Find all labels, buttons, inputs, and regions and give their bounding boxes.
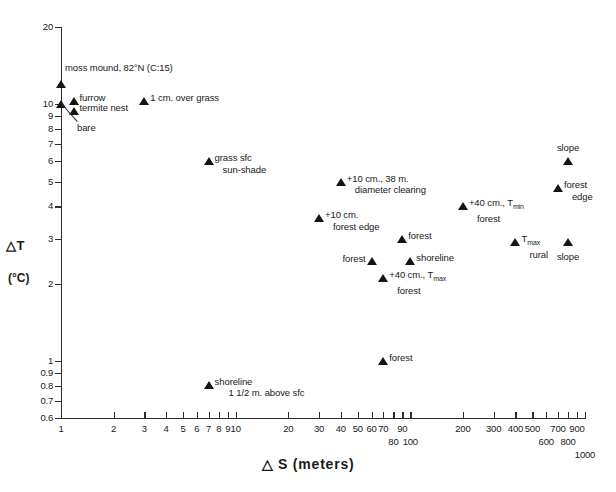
data-point-label: 1 cm. over grass: [150, 92, 219, 104]
label-line-1: slope: [557, 251, 579, 262]
label-line-2: edge: [564, 191, 593, 203]
scatter-chart: 20109876543210.90.80.70.6 12345678910203…: [0, 0, 616, 492]
label-line-2: sun-shade: [215, 164, 266, 176]
x-axis-title: △ S (meters): [0, 456, 616, 472]
y-tick: [55, 361, 61, 362]
triangle-marker: [336, 178, 346, 186]
data-point-label: forest: [408, 230, 431, 242]
x-tick: [236, 412, 237, 418]
x-tick-label: 90: [382, 424, 422, 434]
x-tick: [410, 412, 411, 418]
x-tick-label: 10: [216, 424, 256, 434]
label-line-2: forest: [469, 213, 524, 225]
data-point-label: +10 cm., 38 m.diameter clearing: [347, 173, 426, 196]
triangle-marker: [69, 97, 79, 105]
triangle-marker: [314, 214, 324, 222]
triangle-marker: [405, 257, 415, 265]
triangle-marker: [378, 357, 388, 365]
y-tick: [55, 239, 61, 240]
x-tick: [197, 412, 198, 418]
label-line-1: termite nest: [80, 102, 128, 113]
y-tick: [55, 386, 61, 387]
y-tick-label: 0.8: [17, 381, 53, 391]
triangle-marker: [204, 381, 214, 389]
x-tick: [393, 412, 394, 418]
x-tick: [577, 412, 578, 418]
triangle-marker: [563, 157, 573, 165]
x-tick: [319, 412, 320, 418]
triangle-marker: [367, 257, 377, 265]
y-tick: [55, 116, 61, 117]
x-tick: [166, 412, 167, 418]
y-tick: [55, 161, 61, 162]
x-tick: [228, 412, 229, 418]
triangle-marker: [139, 97, 149, 105]
y-tick: [55, 401, 61, 402]
label-line-2: diameter clearing: [347, 184, 426, 196]
label-line-1: +40 cm., Tmin: [469, 197, 524, 208]
data-point-label: shoreline: [416, 252, 454, 264]
y-tick-label: 9: [17, 111, 53, 121]
y-tick: [55, 206, 61, 207]
x-tick: [515, 412, 516, 418]
x-tick: [585, 412, 586, 418]
triangle-marker: [56, 80, 66, 88]
y-tick-label: 4: [17, 201, 53, 211]
x-tick: [532, 412, 533, 418]
x-tick: [546, 412, 547, 418]
data-point-label: slope: [557, 251, 579, 263]
x-tick: [61, 412, 62, 418]
label-line-1: forest: [389, 352, 412, 363]
label-line-1: +10 cm.: [325, 209, 358, 220]
x-tick: [341, 412, 342, 418]
triangle-marker: [204, 157, 214, 165]
y-tick: [55, 144, 61, 145]
label-line-1: 1 cm. over grass: [150, 92, 219, 103]
label-line-1: shoreline: [416, 252, 454, 263]
data-point-label: forest: [389, 352, 412, 364]
x-tick: [568, 412, 569, 418]
y-tick-label: 0.9: [17, 368, 53, 378]
label-line-1: +40 cm., Tmax: [389, 269, 446, 280]
data-point-label: forestedge: [564, 179, 593, 202]
triangle-marker: [458, 202, 468, 210]
triangle-marker: [553, 184, 563, 192]
label-line-1: forest: [408, 230, 431, 241]
label-line-2: forest: [389, 285, 446, 297]
x-tick: [144, 412, 145, 418]
label-line-1: grass sfc: [215, 152, 252, 163]
y-tick-label: 1: [17, 356, 53, 366]
y-tick-label: 0.7: [17, 396, 53, 406]
triangle-marker: [510, 238, 520, 246]
y-axis-title-unit: (°C): [8, 271, 29, 285]
data-point-label: shoreline1 1/2 m. above sfc: [215, 376, 305, 399]
label-line-2: forest edge: [325, 221, 379, 233]
x-tick: [183, 412, 184, 418]
x-axis-line: [61, 418, 586, 419]
label-line-1: slope: [557, 142, 579, 153]
x-tick-label: 1: [41, 424, 81, 434]
data-point-label: Tmaxrural: [521, 233, 548, 260]
y-tick-label: 5: [17, 177, 53, 187]
label-line-2: 1 1/2 m. above sfc: [215, 387, 305, 399]
label-line-1: forest: [564, 179, 587, 190]
triangle-marker: [378, 274, 388, 282]
x-tick: [494, 412, 495, 418]
data-point-label: +40 cm., Tmaxforest: [389, 269, 446, 296]
triangle-marker: [563, 238, 573, 246]
data-point-label: bare: [77, 122, 96, 134]
data-point-label: slope: [557, 142, 579, 154]
label-line-1: +10 cm., 38 m.: [347, 173, 409, 184]
x-tick: [114, 412, 115, 418]
data-point-label: +10 cm.forest edge: [325, 209, 379, 232]
y-axis-title: △T: [6, 238, 25, 253]
y-tick: [55, 182, 61, 183]
y-tick-label: 7: [17, 139, 53, 149]
label-line-1: forest: [342, 253, 365, 264]
y-tick: [55, 129, 61, 130]
x-tick: [288, 412, 289, 418]
y-tick: [55, 27, 61, 28]
y-tick-label: 8: [17, 124, 53, 134]
data-point-label: moss mound, 82°N (C:15): [65, 62, 173, 74]
triangle-marker: [397, 235, 407, 243]
